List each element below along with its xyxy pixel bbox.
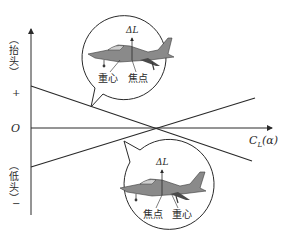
y-negative-sign: − <box>12 199 20 209</box>
cg-label-bottom: 重心 <box>172 210 192 220</box>
focus-label-top: 焦点 <box>128 74 148 84</box>
origin-label: O <box>11 123 20 134</box>
lift-label-top: ΔL <box>126 26 138 35</box>
lift-label-bottom: ΔL <box>156 158 168 167</box>
y-positive-label: （抬头） <box>7 34 17 78</box>
x-axis-label-arg: (α) <box>262 134 278 147</box>
callout-bottom <box>120 139 214 229</box>
y-positive-sign: + <box>12 88 20 98</box>
cg-label-top: 重心 <box>98 74 118 84</box>
focus-label-bottom: 焦点 <box>143 210 163 220</box>
diagram-canvas <box>0 0 283 241</box>
x-axis-label: CL(α) <box>249 135 278 149</box>
pitching-moment-diagram: O （抬头） + （低头） − CL(α) ΔL 重心 焦点 ΔL 焦点 重心 <box>0 0 283 241</box>
